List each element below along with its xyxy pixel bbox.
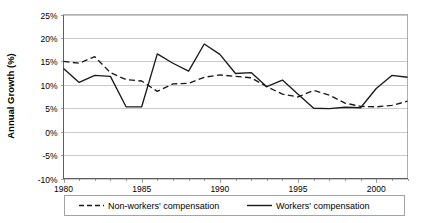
y-axis-ticks: 25%20%15%10%5%0%-5%-10% xyxy=(38,11,64,185)
y-tick-label: 20% xyxy=(40,34,57,44)
x-tick-label: 1995 xyxy=(289,184,308,194)
chart-container: 25%20%15%10%5%0%-5%-10% 1980198519901995… xyxy=(0,0,422,223)
y-tick-label: 0% xyxy=(45,128,58,138)
x-tick-label: 1985 xyxy=(132,184,151,194)
x-tick-label: 1990 xyxy=(210,184,229,194)
plot-background xyxy=(64,15,408,179)
x-axis-ticks xyxy=(65,179,409,183)
legend-label-workers-compensation: Workers' compensation xyxy=(276,201,370,211)
y-tick-label: 25% xyxy=(40,11,57,21)
line-chart: 25%20%15%10%5%0%-5%-10% 1980198519901995… xyxy=(0,0,422,223)
y-axis-title: Annual Growth (%) xyxy=(5,53,16,139)
y-tick-label: -5% xyxy=(42,151,58,161)
x-tick-label: 2000 xyxy=(367,184,386,194)
x-axis-labels: 19801985199019952000 xyxy=(54,184,386,194)
legend-label-non-workers-compensation: Non-workers' compensation xyxy=(108,201,219,211)
chart-legend: Non-workers' compensation Workers' compe… xyxy=(65,196,405,216)
y-tick-label: 10% xyxy=(40,81,57,91)
y-tick-label: 5% xyxy=(45,104,58,114)
y-tick-label: 15% xyxy=(40,57,57,67)
x-tick-label: 1980 xyxy=(54,184,73,194)
